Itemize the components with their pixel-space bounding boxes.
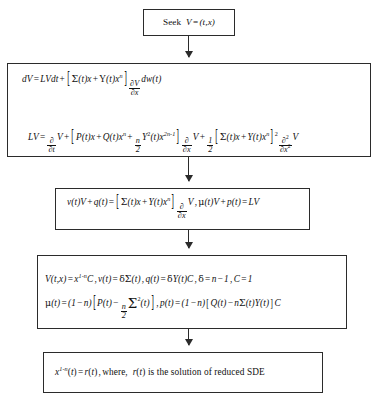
arrow-vq-to-vtx bbox=[188, 230, 189, 248]
vtx-coefficients-box: V(t,x)=x1-nC,v(t)=δΣ(t),q(t)=δY(t)C,δ=n−… bbox=[37, 255, 347, 329]
vtx-equation: V(t,x)=x1-nC,v(t)=δΣ(t),q(t)=δY(t)C,δ=n−… bbox=[38, 274, 346, 285]
dv-lv-box: dV=LVdt+[Σ(t)x+Y(t)xn]∂V∂xdw(t) LV=∂∂tV+… bbox=[7, 63, 371, 157]
seek-box: Seek V=(t,x) bbox=[143, 9, 235, 36]
vq-condition-box: v(t)V+q(t)=[Σ(t)x+Y(t)xn]∂∂xV,μ(t)V+p(t)… bbox=[55, 188, 310, 230]
solution-equation: x1-n(t)=r(t),where, r(t) is the solution… bbox=[44, 368, 322, 378]
vq-equation: v(t)V+q(t)=[Σ(t)x+Y(t)xn]∂∂xV,μ(t)V+p(t)… bbox=[56, 197, 309, 220]
dv-equation: dV=LVdt+[Σ(t)x+Y(t)xn]∂V∂xdw(t) bbox=[8, 74, 370, 97]
arrow-seek-to-dv bbox=[188, 36, 189, 57]
arrow-vtx-to-sol bbox=[188, 329, 189, 345]
mu-p-equation: μ(t)=(1−n)[P(t)−n2Σ2(t)],p(t)=(1−n)[Q(t)… bbox=[38, 296, 346, 321]
where-label: where, bbox=[102, 367, 128, 377]
arrow-dv-to-vq bbox=[188, 157, 189, 181]
lv-operator-equation: LV=∂∂tV+[P(t)x+Q(t)xn+n2Y2(t)x2n-1]∂∂xV+… bbox=[8, 132, 370, 155]
seek-label: Seek bbox=[163, 17, 181, 27]
solution-tail-label: is the solution of reduced SDE bbox=[148, 367, 265, 377]
seek-equation: Seek V=(t,x) bbox=[156, 18, 222, 28]
flowchart-canvas: Seek V=(t,x) dV=LVdt+[Σ(t)x+Y(t)xn]∂V∂xd… bbox=[0, 0, 378, 407]
solution-box: x1-n(t)=r(t),where, r(t) is the solution… bbox=[43, 352, 323, 393]
